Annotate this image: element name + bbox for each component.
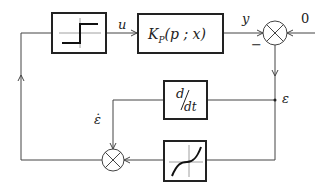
derivative-denominator: dt [184,101,197,113]
nonlinear-block [163,140,207,182]
block-diagram: KP(p ; x) d dt u y 0 − ε ε̇ [0,0,334,189]
signal-u-label: u [118,18,126,31]
minus-sign-label: − [251,38,262,51]
plant-label-args: (p ; x) [165,26,206,42]
signal-y-label: y [242,12,249,25]
s-curve-icon [165,142,205,180]
plant-block: KP(p ; x) [137,13,224,54]
relay-step-icon [53,14,105,52]
relay-block [51,12,107,54]
signal-epsilon-label: ε [282,92,289,105]
signal-epsilon-dot-label: ε̇ [94,113,101,126]
reference-zero-label: 0 [301,12,309,25]
derivative-block: d dt [163,80,208,120]
plant-label-k: K [148,26,158,42]
